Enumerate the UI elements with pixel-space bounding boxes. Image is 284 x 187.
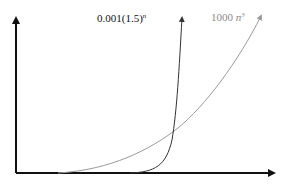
cubic-curve-label: 1000 n3 bbox=[211, 11, 245, 23]
cubic-curve bbox=[58, 16, 261, 173]
chart-canvas bbox=[0, 0, 284, 187]
exponential-curve-label: 0.001(1.5)n bbox=[97, 12, 146, 24]
exponential-curve bbox=[130, 18, 182, 173]
